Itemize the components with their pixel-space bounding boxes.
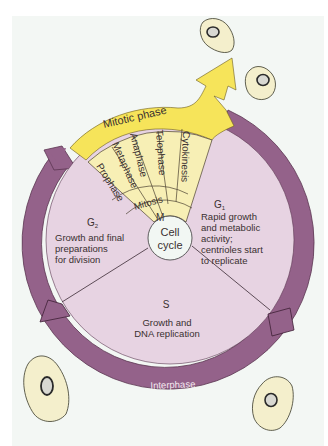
s-desc-line2: DNA replication xyxy=(134,328,199,339)
g1-desc-line4: centrioles start xyxy=(201,244,263,255)
phase-cytokinesis: Cytokinesis xyxy=(179,131,192,182)
g2-desc-line3: for division xyxy=(55,254,100,265)
g2-desc-line2: preparations xyxy=(55,243,108,254)
g1-desc-line2: and metabolic xyxy=(201,222,260,233)
nucleus-icon xyxy=(207,27,219,37)
cell-cycle-center xyxy=(148,216,192,260)
center-label-line2: cycle xyxy=(157,239,182,251)
g1-desc-line5: to replicate xyxy=(201,255,247,266)
g1-desc-line3: activity; xyxy=(201,233,233,244)
s-title: S xyxy=(163,299,170,310)
nucleus-icon xyxy=(257,75,269,86)
interphase-label: Interphase xyxy=(150,378,195,391)
m-label: M xyxy=(156,212,164,223)
g2-desc-line1: Growth and final xyxy=(55,232,124,243)
s-desc-line1: Growth and xyxy=(142,317,191,328)
cell-cycle-diagram: Cell cycle Mitotic phase Prophase Metaph… xyxy=(0,0,328,446)
nucleus-icon xyxy=(265,394,277,407)
center-label-line1: Cell xyxy=(161,226,180,238)
nucleus-icon xyxy=(41,377,53,395)
g1-desc-line1: Rapid growth xyxy=(201,211,257,222)
